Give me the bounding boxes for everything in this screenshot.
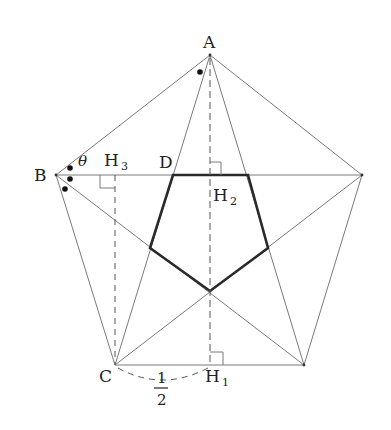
label-C: C [99,366,112,386]
angle-mark-B-2 [67,176,73,182]
right-angle-H1 [210,352,223,365]
right-angle-H3 [100,175,115,188]
right-angle-H2 [210,162,221,175]
label-A: A [202,32,216,52]
label-H1: H [205,366,220,386]
angle-mark-B-3 [62,186,68,192]
pentagon-diagram: A B C D θ H 3 H 2 H 1 1 2 [0,0,391,430]
label-H3: H [104,150,119,170]
label-H3-sub: 3 [121,160,128,173]
label-B: B [34,165,47,185]
vertex-E-dot [361,174,364,177]
label-H2: H [213,185,228,205]
label-D: D [159,152,173,172]
fraction-denominator: 2 [157,391,167,409]
label-H2-sub: 2 [230,195,237,208]
inner-pentagon [150,175,268,291]
vertex-A-dot [209,54,212,57]
vertex-B-dot [55,174,58,177]
vertex-D2-dot [303,364,306,367]
fraction-numerator: 1 [157,369,167,387]
label-theta: θ [78,152,87,170]
angle-mark-A [197,69,203,75]
angle-mark-B-1 [67,165,73,171]
label-H1-sub: 1 [222,376,229,389]
